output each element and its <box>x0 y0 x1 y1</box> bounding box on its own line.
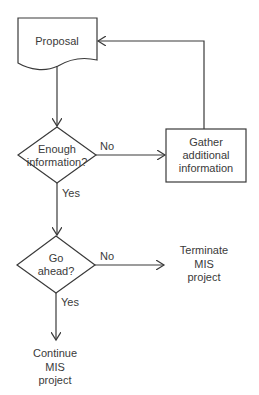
flowchart: Proposal Enough information? No Gather a… <box>0 0 259 395</box>
gather-line2: additional <box>182 149 229 161</box>
edge-gather-to-proposal <box>98 41 204 129</box>
gather-line3: information <box>179 162 233 174</box>
gather-line1: Gather <box>189 136 223 148</box>
continue-node: Continue MIS project <box>33 347 77 386</box>
terminate-line1: Terminate <box>180 244 228 256</box>
proposal-node: Proposal <box>18 18 97 70</box>
continue-line1: Continue <box>33 347 77 359</box>
terminate-line2: MIS <box>194 258 214 270</box>
decision2-line2: ahead? <box>38 265 75 277</box>
edge-go-no-label: No <box>100 250 114 262</box>
edge-enough-yes-label: Yes <box>62 187 80 199</box>
proposal-label: Proposal <box>35 35 78 47</box>
gather-information-node: Gather additional information <box>166 129 246 182</box>
edge-go-yes-label: Yes <box>61 296 79 308</box>
terminate-node: Terminate MIS project <box>180 244 228 283</box>
enough-information-decision: Enough information? <box>18 127 96 183</box>
go-ahead-decision: Go ahead? <box>17 236 95 293</box>
decision1-line2: information? <box>27 156 88 168</box>
edge-enough-no-label: No <box>100 140 114 152</box>
terminate-line3: project <box>187 271 220 283</box>
continue-line2: MIS <box>45 361 65 373</box>
continue-line3: project <box>38 374 71 386</box>
decision1-line1: Enough <box>38 143 76 155</box>
decision2-line1: Go <box>49 252 64 264</box>
